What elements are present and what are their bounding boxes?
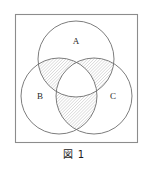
set-label-b: B [37,91,43,101]
set-label-c: C [110,91,116,101]
figure-caption: 図 1 [0,148,148,161]
figure-container: A B C 図 1 [0,0,148,169]
set-label-a: A [73,36,80,46]
venn-diagram: A B C [0,0,148,169]
